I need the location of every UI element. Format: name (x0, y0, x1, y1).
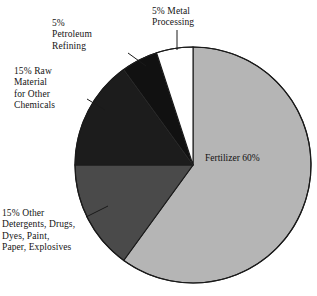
slice-label-raw-material: 15% Raw Material for Other Chemicals (14, 66, 96, 112)
slice-label-petroleum-refining: 5% Petroleum Refining (52, 18, 128, 52)
slice-label-other: 15% Other Detergents, Drugs, Dyes, Paint… (2, 208, 120, 254)
pie-chart: 5% Metal Processing 5% Petroleum Refinin… (0, 0, 317, 296)
slice-label-metal-processing: 5% Metal Processing (152, 6, 238, 29)
slice-label-fertilizer: Fertilizer 60% (205, 153, 297, 164)
